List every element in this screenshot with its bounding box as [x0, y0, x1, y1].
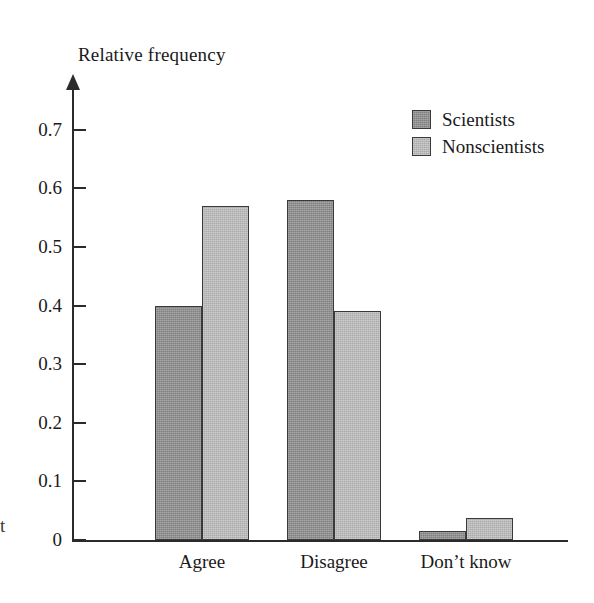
bar-disagree-scientists [287, 200, 334, 540]
y-axis-tick-label: 0.6 [10, 177, 62, 199]
y-axis-tick-label: 0.2 [10, 412, 62, 434]
x-axis-line [72, 540, 568, 542]
legend-item-scientists: Scientists [412, 106, 544, 133]
y-axis-tick-label: 0 [10, 529, 62, 551]
y-axis-tick [74, 246, 86, 248]
y-axis-arrowhead [66, 74, 80, 90]
bar-agree-scientists [155, 306, 202, 540]
y-axis-tick [74, 187, 86, 189]
legend-swatch-nonscientists [412, 137, 431, 156]
cropped-edge-glyph: t [0, 515, 5, 537]
y-axis-tick [74, 480, 86, 482]
bar-chart-figure: Relative frequency t 00.10.20.30.40.50.6… [0, 0, 594, 603]
y-axis-tick-label: 0.3 [10, 353, 62, 375]
legend-swatch-scientists [412, 110, 431, 129]
y-axis-tick [74, 539, 86, 541]
bar-disagree-nonscientists [334, 311, 381, 540]
y-axis-tick-label: 0.4 [10, 295, 62, 317]
legend-label-nonscientists: Nonscientists [442, 136, 544, 158]
y-axis-tick [74, 363, 86, 365]
y-axis-tick-label: 0.5 [10, 236, 62, 258]
chart-legend: ScientistsNonscientists [412, 106, 544, 160]
y-axis-tick-label: 0.7 [10, 119, 62, 141]
legend-item-nonscientists: Nonscientists [412, 133, 544, 160]
legend-label-scientists: Scientists [442, 109, 515, 131]
y-axis-tick [74, 422, 86, 424]
y-axis-line [72, 86, 74, 541]
x-axis-label-2: Don’t know [421, 551, 512, 573]
y-axis-caption: Relative frequency [78, 44, 226, 66]
y-axis-tick [74, 129, 86, 131]
y-axis-tick [74, 305, 86, 307]
x-axis-label-1: Disagree [300, 551, 368, 573]
bar-don-t-know-scientists [419, 531, 466, 540]
y-axis-tick-label: 0.1 [10, 470, 62, 492]
x-axis-label-0: Agree [179, 551, 225, 573]
bar-agree-nonscientists [202, 206, 249, 540]
bar-don-t-know-nonscientists [466, 518, 513, 540]
